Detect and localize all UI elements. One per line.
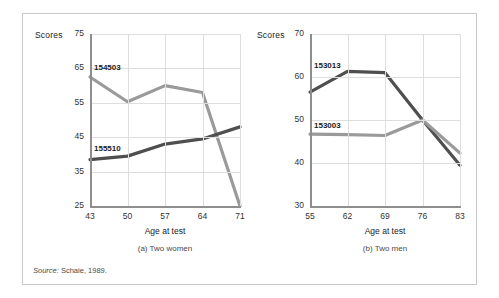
source-note: Source: Schaie, 1989.: [33, 266, 107, 275]
y-axis-tick-label: 35: [62, 166, 84, 176]
y-axis-tick-label: 25: [62, 200, 84, 210]
y-axis-tick-label: 65: [62, 62, 84, 72]
gridline-vertical: [348, 34, 349, 206]
series-label: 154503: [94, 63, 121, 72]
x-axis-tick-label: 64: [189, 211, 217, 221]
y-axis-title-a: Scores: [35, 30, 63, 40]
figure-root: Scores Age at test (a) Two women 7565554…: [0, 0, 499, 298]
x-axis-tick-label: 50: [114, 211, 142, 221]
panel-caption-b: (b) Two men: [300, 244, 470, 253]
x-axis-tick-label: 83: [446, 211, 474, 221]
gridline-vertical: [460, 34, 461, 206]
source-label: Source:: [33, 266, 59, 275]
y-axis-line: [90, 34, 92, 207]
panel-caption-a: (a) Two women: [80, 244, 250, 253]
gridline-vertical: [240, 34, 241, 206]
y-axis-tick-label: 60: [282, 71, 304, 81]
y-axis-tick-label: 50: [282, 114, 304, 124]
series-label: 153003: [314, 121, 341, 130]
x-axis-line: [90, 206, 241, 208]
chart-panel-two-men: Scores Age at test (b) Two men 706050403…: [255, 14, 477, 284]
x-axis-tick-label: 69: [371, 211, 399, 221]
x-axis-tick-label: 71: [226, 211, 254, 221]
series-label: 155510: [94, 144, 121, 153]
y-axis-tick-label: 75: [62, 28, 84, 38]
x-axis-line: [310, 206, 461, 208]
gridline-vertical: [385, 34, 386, 206]
gridline-vertical: [203, 34, 204, 206]
y-axis-tick-label: 30: [282, 200, 304, 210]
series-label: 153013: [314, 61, 341, 70]
x-axis-title-b: Age at test: [310, 226, 460, 236]
y-axis-tick-label: 55: [62, 97, 84, 107]
x-axis-tick-label: 57: [151, 211, 179, 221]
y-axis-tick-label: 45: [62, 131, 84, 141]
chart-panel-two-women: Scores Age at test (a) Two women 7565554…: [33, 14, 263, 284]
plot-area-b: [310, 34, 460, 206]
x-axis-tick-label: 55: [296, 211, 324, 221]
y-axis-tick-label: 70: [282, 28, 304, 38]
figure-frame: Scores Age at test (a) Two women 7565554…: [22, 13, 477, 285]
x-axis-tick-label: 76: [409, 211, 437, 221]
x-axis-tick-label: 62: [334, 211, 362, 221]
y-axis-title-b: Scores: [257, 30, 285, 40]
source-citation: Schaie, 1989.: [59, 266, 107, 275]
gridline-vertical: [128, 34, 129, 206]
plot-area-a: [90, 34, 240, 206]
y-axis-tick-label: 40: [282, 157, 304, 167]
y-axis-line: [310, 34, 312, 207]
gridline-vertical: [423, 34, 424, 206]
x-axis-tick-label: 43: [76, 211, 104, 221]
gridline-vertical: [165, 34, 166, 206]
x-axis-title-a: Age at test: [90, 226, 240, 236]
